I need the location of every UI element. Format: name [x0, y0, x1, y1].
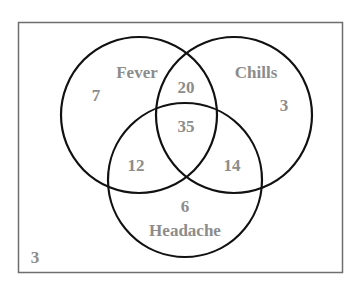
fever-set-label: Fever [116, 63, 158, 82]
chills-headache-count: 14 [224, 156, 242, 175]
chills-only-count: 3 [280, 96, 289, 115]
outside-count: 3 [31, 248, 40, 267]
fever-only-count: 7 [92, 86, 101, 105]
headache-set-label: Headache [149, 221, 221, 240]
venn-diagram: Fever Chills Headache 7 3 6 20 12 14 35 … [0, 0, 355, 296]
all-three-count: 35 [178, 117, 195, 136]
fever-chills-count: 20 [178, 78, 195, 97]
headache-only-count: 6 [181, 197, 190, 216]
fever-headache-count: 12 [128, 156, 145, 175]
chills-set-label: Chills [235, 63, 278, 82]
